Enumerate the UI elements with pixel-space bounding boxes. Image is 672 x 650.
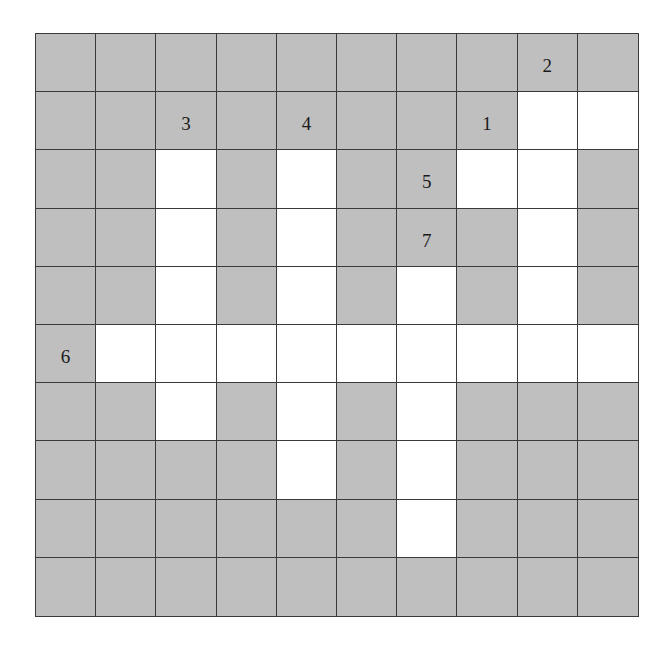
open-cell-r4-c8[interactable] xyxy=(518,267,578,325)
blocked-cell-r0-c4 xyxy=(277,34,337,92)
blocked-cell-r0-c3 xyxy=(217,34,277,92)
blocked-cell-r3-c6: 7 xyxy=(397,209,457,267)
blocked-cell-r9-c6 xyxy=(397,558,457,616)
open-cell-r2-c7[interactable] xyxy=(457,150,517,208)
blocked-cell-r9-c3 xyxy=(217,558,277,616)
blocked-cell-r1-c1 xyxy=(96,92,156,150)
blocked-cell-r6-c1 xyxy=(96,383,156,441)
open-cell-r5-c8[interactable] xyxy=(518,325,578,383)
blocked-cell-r0-c6 xyxy=(397,34,457,92)
open-cell-r3-c4[interactable] xyxy=(277,209,337,267)
blocked-cell-r6-c0 xyxy=(36,383,96,441)
blocked-cell-r2-c1 xyxy=(96,150,156,208)
blocked-cell-r8-c2 xyxy=(156,500,216,558)
clue-number: 5 xyxy=(422,172,432,191)
open-cell-r7-c6[interactable] xyxy=(397,441,457,499)
open-cell-r5-c5[interactable] xyxy=(337,325,397,383)
clue-number: 2 xyxy=(542,56,552,75)
open-cell-r1-c9[interactable] xyxy=(578,92,638,150)
blocked-cell-r1-c5 xyxy=(337,92,397,150)
blocked-cell-r7-c0 xyxy=(36,441,96,499)
blocked-cell-r6-c9 xyxy=(578,383,638,441)
blocked-cell-r8-c0 xyxy=(36,500,96,558)
open-cell-r5-c1[interactable] xyxy=(96,325,156,383)
blocked-cell-r3-c0 xyxy=(36,209,96,267)
open-cell-r5-c2[interactable] xyxy=(156,325,216,383)
blocked-cell-r4-c5 xyxy=(337,267,397,325)
blocked-cell-r0-c7 xyxy=(457,34,517,92)
open-cell-r5-c6[interactable] xyxy=(397,325,457,383)
blocked-cell-r9-c9 xyxy=(578,558,638,616)
blocked-cell-r0-c9 xyxy=(578,34,638,92)
blocked-cell-r9-c0 xyxy=(36,558,96,616)
blocked-cell-r4-c1 xyxy=(96,267,156,325)
crossword-grid: 2341576 xyxy=(35,33,639,617)
blocked-cell-r2-c0 xyxy=(36,150,96,208)
open-cell-r2-c8[interactable] xyxy=(518,150,578,208)
open-cell-r4-c2[interactable] xyxy=(156,267,216,325)
blocked-cell-r2-c6: 5 xyxy=(397,150,457,208)
clue-number: 1 xyxy=(482,114,492,133)
blocked-cell-r7-c9 xyxy=(578,441,638,499)
blocked-cell-r6-c8 xyxy=(518,383,578,441)
blocked-cell-r9-c7 xyxy=(457,558,517,616)
blocked-cell-r8-c8 xyxy=(518,500,578,558)
blocked-cell-r3-c3 xyxy=(217,209,277,267)
blocked-cell-r7-c3 xyxy=(217,441,277,499)
blocked-cell-r6-c3 xyxy=(217,383,277,441)
blocked-cell-r6-c5 xyxy=(337,383,397,441)
blocked-cell-r4-c3 xyxy=(217,267,277,325)
open-cell-r8-c6[interactable] xyxy=(397,500,457,558)
blocked-cell-r0-c2 xyxy=(156,34,216,92)
blocked-cell-r4-c9 xyxy=(578,267,638,325)
blocked-cell-r0-c5 xyxy=(337,34,397,92)
blocked-cell-r9-c8 xyxy=(518,558,578,616)
open-cell-r4-c6[interactable] xyxy=(397,267,457,325)
blocked-cell-r5-c0: 6 xyxy=(36,325,96,383)
open-cell-r5-c7[interactable] xyxy=(457,325,517,383)
open-cell-r6-c6[interactable] xyxy=(397,383,457,441)
clue-number: 3 xyxy=(181,114,191,133)
blocked-cell-r0-c1 xyxy=(96,34,156,92)
blocked-cell-r1-c0 xyxy=(36,92,96,150)
blocked-cell-r7-c2 xyxy=(156,441,216,499)
clue-number: 4 xyxy=(302,114,312,133)
open-cell-r1-c8[interactable] xyxy=(518,92,578,150)
blocked-cell-r3-c5 xyxy=(337,209,397,267)
blocked-cell-r0-c0 xyxy=(36,34,96,92)
blocked-cell-r7-c5 xyxy=(337,441,397,499)
blocked-cell-r4-c7 xyxy=(457,267,517,325)
blocked-cell-r1-c6 xyxy=(397,92,457,150)
blocked-cell-r9-c4 xyxy=(277,558,337,616)
blocked-cell-r3-c9 xyxy=(578,209,638,267)
open-cell-r5-c3[interactable] xyxy=(217,325,277,383)
open-cell-r5-c9[interactable] xyxy=(578,325,638,383)
open-cell-r6-c2[interactable] xyxy=(156,383,216,441)
open-cell-r2-c4[interactable] xyxy=(277,150,337,208)
blocked-cell-r8-c1 xyxy=(96,500,156,558)
blocked-cell-r8-c5 xyxy=(337,500,397,558)
blocked-cell-r0-c8: 2 xyxy=(518,34,578,92)
blocked-cell-r4-c0 xyxy=(36,267,96,325)
blocked-cell-r8-c4 xyxy=(277,500,337,558)
blocked-cell-r6-c7 xyxy=(457,383,517,441)
clue-number: 6 xyxy=(61,347,71,366)
open-cell-r7-c4[interactable] xyxy=(277,441,337,499)
open-cell-r3-c8[interactable] xyxy=(518,209,578,267)
blocked-cell-r8-c3 xyxy=(217,500,277,558)
open-cell-r5-c4[interactable] xyxy=(277,325,337,383)
blocked-cell-r2-c9 xyxy=(578,150,638,208)
clue-number: 7 xyxy=(422,231,432,250)
blocked-cell-r9-c1 xyxy=(96,558,156,616)
blocked-cell-r7-c1 xyxy=(96,441,156,499)
blocked-cell-r2-c5 xyxy=(337,150,397,208)
open-cell-r3-c2[interactable] xyxy=(156,209,216,267)
open-cell-r6-c4[interactable] xyxy=(277,383,337,441)
blocked-cell-r3-c7 xyxy=(457,209,517,267)
open-cell-r4-c4[interactable] xyxy=(277,267,337,325)
blocked-cell-r3-c1 xyxy=(96,209,156,267)
open-cell-r2-c2[interactable] xyxy=(156,150,216,208)
blocked-cell-r9-c2 xyxy=(156,558,216,616)
blocked-cell-r2-c3 xyxy=(217,150,277,208)
blocked-cell-r8-c7 xyxy=(457,500,517,558)
